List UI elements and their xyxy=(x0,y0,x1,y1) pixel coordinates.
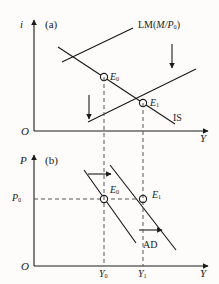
curve-label-lm: LM(M/P0) xyxy=(138,20,180,31)
lm-label-mid: M/P xyxy=(156,19,173,30)
curve-label-is: IS xyxy=(173,113,182,123)
panel-a-label: (a) xyxy=(45,19,57,30)
figure-canvas xyxy=(0,0,219,284)
panel-a-y-axis-label: i xyxy=(20,19,23,30)
panel-a-x-axis-label: Y xyxy=(200,133,206,144)
panel-a-curves xyxy=(58,28,196,124)
e1-sub-a: 1 xyxy=(156,101,159,108)
figure-root: i (a) O Y LM(M/P0) IS E0 E1 P (b) O Y P0… xyxy=(0,0,219,284)
panel-b-label: (b) xyxy=(45,155,58,166)
point-label-e1-panel-b: E1 xyxy=(152,190,161,201)
curve-label-ad: AD xyxy=(143,240,157,250)
panel-a-origin-label: O xyxy=(21,126,29,137)
point-label-e1-panel-a: E1 xyxy=(150,98,159,109)
y1-sub: 1 xyxy=(144,272,147,279)
point-label-e0-panel-b: E0 xyxy=(110,185,119,196)
panel-b-y-axis-label: P xyxy=(20,155,27,166)
panel-b-x-axis-label: Y xyxy=(200,268,206,279)
cross-panel-connectors xyxy=(104,77,143,266)
lm-label-suffix: ) xyxy=(177,19,180,30)
curve-is xyxy=(58,47,175,124)
panel-b-equilibria xyxy=(100,195,146,202)
curve-ad0 xyxy=(84,170,136,243)
e1-sub-b: 1 xyxy=(158,193,161,200)
panel-b-origin-label: O xyxy=(21,261,29,272)
x-tick-label-y1: Y1 xyxy=(138,269,147,280)
p0-sub: 0 xyxy=(18,196,21,203)
x-tick-label-y0: Y0 xyxy=(99,269,108,280)
panel-b-shift-arrows xyxy=(88,174,162,230)
panel-a-shift-arrows xyxy=(89,44,172,119)
point-label-e0-panel-a: E0 xyxy=(110,72,119,83)
e0-sub-b: 0 xyxy=(116,188,119,195)
lm-label-prefix: LM( xyxy=(138,19,156,30)
panel-b-curves xyxy=(84,165,176,250)
e0-sub-a: 0 xyxy=(116,75,119,82)
panel-b-axes xyxy=(34,155,208,266)
y0-sub: 0 xyxy=(105,272,108,279)
y-tick-label-p0: P0 xyxy=(12,193,21,204)
